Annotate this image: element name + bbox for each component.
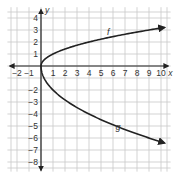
x-tick-label: −2	[12, 68, 22, 78]
x-axis-label: x	[167, 68, 173, 78]
x-tick-label: 5	[99, 68, 104, 78]
y-tick-label: 4	[33, 13, 38, 23]
y-tick-label: 2	[33, 37, 38, 47]
y-axis-label: y	[44, 5, 50, 15]
y-tick-label: −5	[28, 121, 38, 131]
x-tick-label: 7	[123, 68, 128, 78]
function-graph: −2−1123456789104321−2−3−4−5−6−7−8xyfg	[0, 0, 177, 177]
x-tick-label: 9	[147, 68, 152, 78]
x-tick-label: 3	[75, 68, 80, 78]
x-tick-label: 4	[87, 68, 92, 78]
y-tick-label: 3	[33, 25, 38, 35]
x-tick-label: −1	[24, 68, 34, 78]
curve-label-g: g	[115, 122, 120, 132]
x-tick-label: 8	[135, 68, 140, 78]
y-tick-label: −4	[28, 109, 38, 119]
y-tick-label: −3	[28, 97, 38, 107]
curve-f	[41, 27, 165, 66]
x-tick-label: 10	[156, 68, 166, 78]
curve-label-f: f	[107, 27, 111, 37]
y-tick-label: −6	[28, 133, 38, 143]
y-tick-label: −2	[28, 85, 38, 95]
x-tick-label: 2	[63, 68, 68, 78]
y-tick-label: −8	[28, 157, 38, 167]
y-tick-label: −7	[28, 145, 38, 155]
x-tick-label: 1	[51, 68, 56, 78]
y-tick-label: 1	[33, 49, 38, 59]
x-tick-label: 6	[111, 68, 116, 78]
